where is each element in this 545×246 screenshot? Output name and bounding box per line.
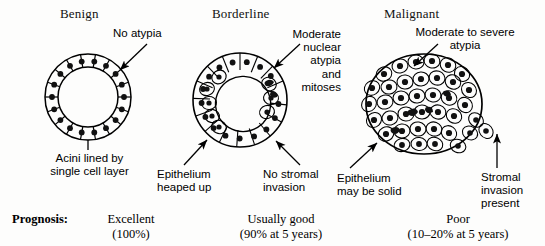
malignant-mass xyxy=(358,52,496,155)
prognosis-label: Prognosis: xyxy=(12,212,68,227)
annotation-acini-lining: Acini lined by single cell layer xyxy=(22,152,157,178)
arrow-no-atypia xyxy=(120,44,147,70)
prognosis-value-benign: Excellent (100%) xyxy=(76,212,186,242)
arrow-no-stromal-invasion xyxy=(276,141,300,165)
annotation-nuclear-atypia-mitoses: Moderate nuclear atypia and mitoses xyxy=(268,28,341,94)
arrow-epithelium-heaped-up xyxy=(184,140,207,165)
annotation-epithelium-may-be-solid: Epithelium may be solid xyxy=(337,172,402,198)
annotation-moderate-severe-atypia: Moderate to severe atypia xyxy=(392,26,538,52)
benign-nuclei xyxy=(49,59,127,136)
tumour-grading-figure: Benign Borderline Malignant xyxy=(0,0,545,246)
prognosis-value-borderline: Usually good (90% at 5 years) xyxy=(216,212,346,242)
prognosis-value-malignant: Poor (10–20% at 5 years) xyxy=(378,212,538,242)
annotation-no-atypia: No atypia xyxy=(113,27,162,40)
arrow-epithelium-may-be-solid xyxy=(350,143,377,168)
annotation-epithelium-heaped-up: Epithelium heaped up xyxy=(157,168,211,194)
malignant-cells xyxy=(358,52,479,153)
annotation-stromal-invasion-present: Stromal invasion present xyxy=(481,171,523,211)
benign-acinus xyxy=(45,54,131,140)
annotation-no-stromal-invasion: No stromal invasion xyxy=(263,168,319,194)
